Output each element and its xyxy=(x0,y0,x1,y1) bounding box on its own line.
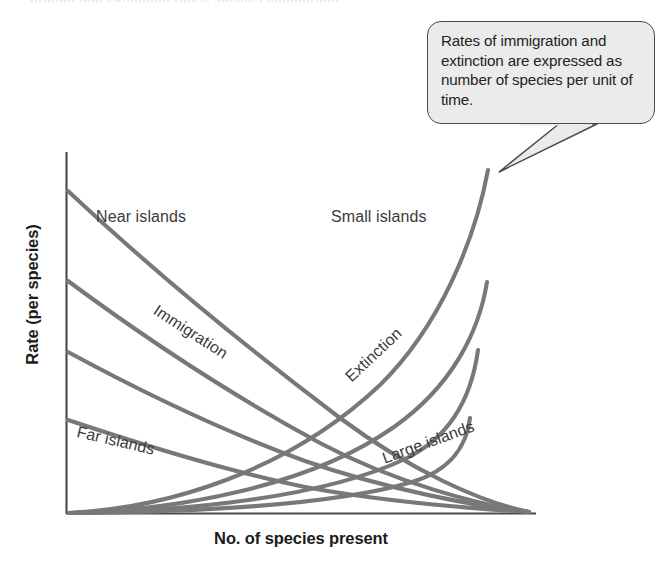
curve-label-near-islands: Near islands xyxy=(96,208,186,226)
callout-text: Rates of immigration and extinction are … xyxy=(441,31,643,109)
immigration-curve-near-islands xyxy=(68,191,529,512)
callout-box: Rates of immigration and extinction are … xyxy=(427,21,655,124)
y-axis-title: Rate (per species) xyxy=(23,200,42,390)
immigration-curve-2 xyxy=(68,281,529,512)
x-axis-title: No. of species present xyxy=(66,529,536,548)
curve-label-small-islands: Small islands xyxy=(331,208,427,226)
extinction-curve-3 xyxy=(69,350,478,513)
island-biogeography-figure: gration and extinction rates, species eq… xyxy=(0,0,671,571)
immigration-curves xyxy=(68,191,529,512)
callout-tail xyxy=(499,123,597,172)
